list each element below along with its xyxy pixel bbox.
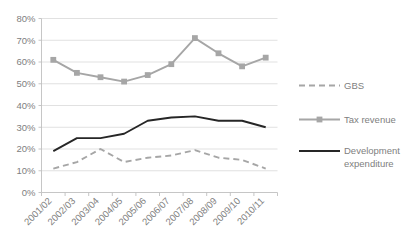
y-axis-labels: 0%10%20%30%40%50%60%70%80% bbox=[16, 13, 36, 198]
data-point-marker bbox=[168, 61, 174, 67]
y-axis-tick-label: 80% bbox=[16, 13, 36, 24]
y-axis-tick-label: 30% bbox=[16, 122, 36, 133]
data-point-marker bbox=[50, 57, 56, 63]
series-gbs bbox=[53, 149, 265, 169]
series-group bbox=[50, 35, 268, 168]
gridlines-group bbox=[42, 19, 278, 171]
legend-item: GBS bbox=[299, 80, 364, 91]
legend-item-label: GBS bbox=[344, 80, 364, 91]
legend-item-label: Tax revenue bbox=[344, 114, 396, 125]
y-axis-tick-label: 20% bbox=[16, 143, 36, 154]
data-point-marker bbox=[145, 72, 151, 78]
legend-item: Developmentexpenditure bbox=[299, 145, 400, 169]
data-point-marker bbox=[121, 79, 127, 85]
y-axis-tick-label: 60% bbox=[16, 56, 36, 67]
series-line bbox=[53, 149, 265, 169]
y-axis-tick-label: 70% bbox=[16, 35, 36, 46]
y-axis-tick-label: 50% bbox=[16, 78, 36, 89]
series-line bbox=[53, 116, 265, 151]
data-point-marker bbox=[239, 63, 245, 69]
data-point-marker bbox=[74, 70, 80, 76]
legend-marker-swatch bbox=[317, 117, 323, 123]
data-point-marker bbox=[216, 50, 222, 56]
chart-container: 0%10%20%30%40%50%60%70%80%2001/022002/03… bbox=[0, 0, 407, 249]
legend-item-label: Development bbox=[344, 145, 400, 156]
data-point-marker bbox=[263, 55, 269, 61]
x-tick-marks bbox=[42, 193, 278, 197]
series-tax-revenue bbox=[50, 35, 268, 84]
data-point-marker bbox=[98, 74, 104, 80]
y-axis-tick-label: 40% bbox=[16, 100, 36, 111]
x-axis-labels: 2001/022002/032003/042004/052005/062006/… bbox=[22, 195, 266, 227]
legend-item: Tax revenue bbox=[299, 114, 396, 125]
series-line bbox=[53, 38, 265, 82]
y-axis-tick-label: 0% bbox=[22, 187, 36, 198]
legend-item-label: expenditure bbox=[344, 158, 394, 169]
legend: GBSTax revenueDevelopmentexpenditure bbox=[299, 80, 400, 169]
series-development-expenditure bbox=[53, 116, 265, 151]
line-chart: 0%10%20%30%40%50%60%70%80%2001/022002/03… bbox=[0, 0, 407, 249]
y-axis-tick-label: 10% bbox=[16, 165, 36, 176]
data-point-marker bbox=[192, 35, 198, 41]
